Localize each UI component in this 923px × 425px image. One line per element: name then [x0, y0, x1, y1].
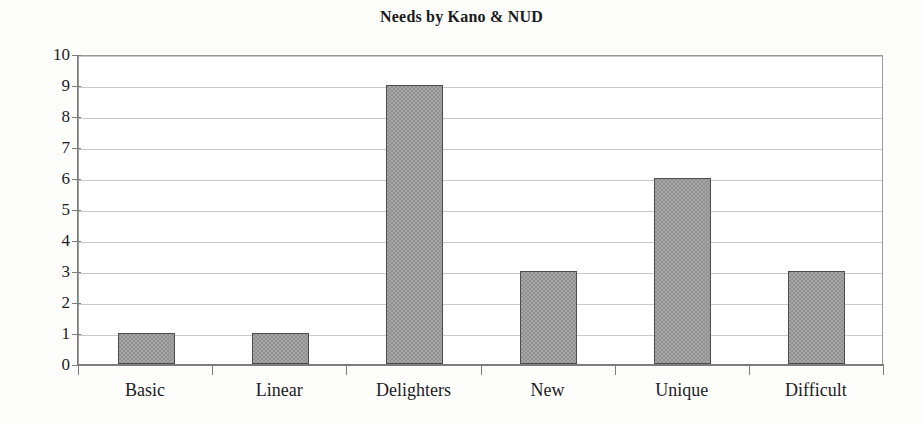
gridline — [79, 87, 882, 88]
y-tick-label: 6 — [8, 170, 70, 187]
bar — [386, 85, 443, 364]
y-tick-mark — [72, 334, 81, 335]
y-tick-label: 3 — [8, 263, 70, 280]
y-tick-label: 4 — [8, 232, 70, 249]
gridline — [79, 211, 882, 212]
y-tick-mark — [72, 55, 81, 56]
x-tick-label: Linear — [212, 381, 346, 401]
gridline — [79, 304, 882, 305]
y-tick-mark — [72, 179, 81, 180]
bar — [118, 333, 175, 364]
gridline — [79, 242, 882, 243]
y-tick-mark — [72, 86, 81, 87]
y-tick-mark — [72, 210, 81, 211]
x-tick-mark — [346, 366, 347, 375]
y-tick-mark — [72, 303, 81, 304]
gridline — [79, 335, 882, 336]
y-tick-label: 9 — [8, 77, 70, 94]
y-tick-label: 2 — [8, 294, 70, 311]
y-tick-label: 0 — [8, 356, 70, 373]
x-tick-label: Delighters — [346, 381, 480, 401]
x-tick-mark — [481, 366, 482, 375]
bar — [252, 333, 309, 364]
gridline — [79, 180, 882, 181]
y-tick-label: 10 — [8, 46, 70, 63]
y-tick-mark — [72, 117, 81, 118]
x-tick-mark — [212, 366, 213, 375]
y-tick-label: 5 — [8, 201, 70, 218]
y-axis-labels: 109876543210 — [0, 0, 70, 425]
y-tick-label: 8 — [8, 108, 70, 125]
y-tick-mark — [72, 148, 81, 149]
x-tick-mark — [615, 366, 616, 375]
bar — [654, 178, 711, 364]
chart-title: Needs by Kano & NUD — [0, 8, 923, 26]
gridline — [79, 149, 882, 150]
x-tick-label: Unique — [615, 381, 749, 401]
gridline — [79, 118, 882, 119]
bar — [520, 271, 577, 364]
y-tick-mark — [72, 241, 81, 242]
bar — [788, 271, 845, 364]
x-tick-label: New — [481, 381, 615, 401]
y-tick-label: 1 — [8, 325, 70, 342]
gridline — [79, 273, 882, 274]
x-tick-label: Basic — [78, 381, 212, 401]
x-tick-mark — [749, 366, 750, 375]
y-tick-mark — [72, 272, 81, 273]
x-tick-mark — [78, 366, 79, 375]
y-tick-label: 7 — [8, 139, 70, 156]
bar-chart: Needs by Kano & NUD 109876543210 BasicLi… — [0, 0, 923, 425]
x-tick-mark — [883, 366, 884, 375]
gridline — [79, 56, 882, 57]
plot-area — [78, 55, 883, 365]
x-tick-label: Difficult — [749, 381, 883, 401]
y-tick-mark — [72, 365, 81, 366]
